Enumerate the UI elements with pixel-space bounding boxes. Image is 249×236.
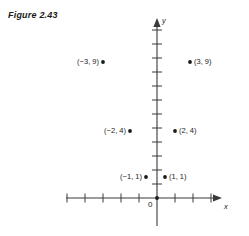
data-point-marker	[128, 129, 132, 133]
coordinate-plane	[0, 0, 249, 236]
data-point-label: (−2, 4)	[104, 127, 126, 135]
data-point-marker	[188, 60, 192, 64]
data-point-label: (−1, 1)	[120, 173, 142, 181]
data-point-label: (2, 4)	[179, 127, 197, 135]
y-axis-arrowhead	[153, 18, 160, 27]
x-axis-label: x	[224, 203, 228, 211]
data-point-label: (1, 1)	[169, 173, 187, 181]
data-point-label: (3, 9)	[194, 58, 212, 66]
data-point-marker	[163, 175, 167, 179]
data-point-marker	[173, 129, 177, 133]
figure-panel: Figure 2.43 (−3, 9)(3, 9)(−2, 4)(2, 4)(−…	[0, 0, 249, 236]
data-point-label: (−3, 9)	[77, 58, 99, 66]
data-point-marker	[144, 175, 148, 179]
data-point-marker	[101, 60, 105, 64]
origin-label: 0	[148, 201, 152, 209]
x-axis-arrowhead	[213, 194, 222, 201]
y-axis-label: y	[162, 17, 166, 25]
data-point-marker	[155, 196, 159, 200]
axis-lines	[66, 18, 222, 226]
